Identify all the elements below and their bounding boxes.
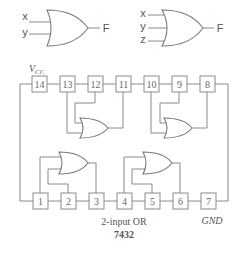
or3-input-z: z [140, 33, 146, 45]
svg-text:6: 6 [178, 196, 183, 207]
svg-text:14: 14 [35, 79, 45, 90]
gate-4-5-6 [124, 152, 180, 193]
pin-3: 3 [89, 193, 104, 209]
pin-9: 9 [172, 76, 187, 92]
pin-5: 5 [145, 193, 160, 209]
svg-text:2: 2 [66, 196, 71, 207]
gate-1-2-3 [40, 152, 96, 193]
chip-caption-part: 7432 [114, 229, 134, 240]
pin-13: 13 [60, 76, 75, 92]
pin-10: 10 [144, 76, 159, 92]
svg-text:13: 13 [63, 79, 73, 90]
gate-13-12-11 [67, 92, 123, 138]
or3-output-f: F [217, 22, 224, 34]
chip-caption-type: 2-input OR [101, 216, 147, 227]
gnd-label: GND [201, 215, 223, 226]
chip-7432: VCC 14 13 12 11 10 9 8 1 2 3 4 5 6 7 [20, 63, 228, 240]
pin-2: 2 [61, 193, 76, 209]
or2-input-y: y [22, 26, 28, 38]
or-gate-diagram: x y F x y z F VCC 14 1 [0, 0, 242, 254]
pin-12: 12 [88, 76, 103, 92]
vcc-label: VCC [29, 63, 45, 76]
pin-1: 1 [33, 193, 48, 209]
svg-text:10: 10 [147, 79, 157, 90]
svg-text:5: 5 [150, 196, 155, 207]
svg-text:11: 11 [119, 79, 129, 90]
svg-text:3: 3 [94, 196, 99, 207]
or3-input-y: y [140, 20, 146, 32]
pin-14: 14 [32, 76, 47, 92]
gate-10-9-8 [151, 92, 207, 138]
pin-7: 7 [201, 193, 216, 209]
svg-text:7: 7 [206, 196, 211, 207]
or3-symbol: x y z F [140, 7, 223, 46]
or3-input-x: x [140, 7, 146, 19]
pin-6: 6 [173, 193, 188, 209]
svg-text:4: 4 [122, 196, 127, 207]
pin-4: 4 [117, 193, 132, 209]
pin-11: 11 [116, 76, 131, 92]
or2-symbol: x y F [22, 10, 109, 46]
svg-text:1: 1 [38, 196, 43, 207]
svg-text:12: 12 [91, 79, 101, 90]
svg-text:9: 9 [177, 79, 182, 90]
pin-8: 8 [200, 76, 215, 92]
or2-output-f: F [103, 22, 110, 34]
svg-text:8: 8 [205, 79, 210, 90]
or2-input-x: x [22, 10, 28, 22]
